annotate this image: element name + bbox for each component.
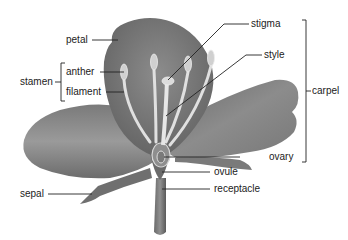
carpel-bracket: [302, 20, 306, 162]
stamen-bracket: [61, 63, 65, 101]
label-carpel: carpel: [312, 85, 339, 97]
label-receptacle: receptacle: [214, 183, 260, 195]
label-stamen: stamen: [20, 76, 53, 88]
stem: [154, 178, 166, 235]
flower-diagram: petal stamen anther filament stigma styl…: [0, 0, 348, 240]
ovule-shape: [157, 151, 165, 163]
stigma-shape: [162, 77, 174, 85]
label-style: style: [264, 49, 285, 61]
label-ovary: ovary: [269, 151, 293, 163]
label-sepal: sepal: [20, 188, 44, 200]
label-petal: petal: [66, 34, 88, 46]
label-anther: anther: [66, 66, 94, 78]
label-stigma: stigma: [251, 18, 280, 30]
label-filament: filament: [66, 86, 101, 98]
flower-illustration: [0, 0, 348, 240]
label-ovule: ovule: [214, 166, 238, 178]
